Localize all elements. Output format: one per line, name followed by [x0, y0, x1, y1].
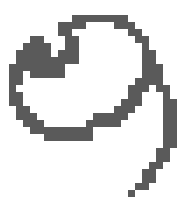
glyph-pixel-run	[135, 78, 163, 85]
glyph-pixel-run	[142, 169, 156, 176]
glyph-pixel-run	[9, 71, 23, 78]
glyph-pixel-run	[135, 36, 149, 43]
glyph-pixel-run	[9, 64, 65, 71]
glyph-pixel-run	[128, 29, 142, 36]
glyph-pixel-run	[163, 141, 177, 148]
glyph-pixel-run	[23, 120, 44, 127]
glyph-pixel-run	[72, 15, 128, 22]
glyph-pixel-run	[156, 148, 170, 155]
glyph-pixel-run	[142, 71, 163, 78]
glyph-pixel-run	[163, 99, 177, 106]
glyph-pixel-run	[23, 43, 51, 50]
glyph-pixel-run	[142, 64, 163, 71]
glyph-pixel-run	[142, 57, 156, 64]
glyph-pixel-run	[142, 43, 149, 50]
glyph-pixel-run	[142, 176, 156, 183]
glyph-pixel-run	[58, 22, 86, 29]
glyph-pixel-run	[163, 92, 170, 99]
glyph-pixel-run	[128, 85, 149, 92]
handwritten-glyph	[0, 0, 186, 215]
glyph-pixel-run	[156, 85, 170, 92]
glyph-pixel-run	[142, 50, 156, 57]
glyph-pixel-run	[30, 127, 93, 134]
glyph-pixel-run	[30, 36, 44, 43]
glyph-pixel-run	[163, 127, 177, 134]
glyph-pixel-run	[156, 155, 170, 162]
glyph-pixel-run	[9, 85, 16, 92]
glyph-pixel-run	[44, 134, 93, 141]
glyph-pixel-run	[128, 190, 135, 197]
glyph-pixel-run	[163, 113, 177, 120]
glyph-pixel-run	[114, 22, 135, 29]
glyph-pixel-run	[86, 120, 121, 127]
glyph-pixel-run	[128, 92, 142, 99]
glyph-pixel-run	[114, 106, 135, 113]
glyph-pixel-run	[9, 99, 23, 106]
glyph-pixel-run	[9, 78, 23, 85]
glyph-pixel-run	[65, 36, 79, 43]
glyph-pixel-run	[16, 50, 51, 57]
glyph-pixel-run	[30, 71, 65, 78]
glyph-pixel-run	[135, 183, 149, 190]
glyph-pixel-run	[16, 57, 79, 64]
glyph-pixel-run	[65, 43, 79, 50]
glyph-pixel-run	[9, 92, 23, 99]
glyph-pixel-run	[121, 99, 142, 106]
glyph-pixel-run	[149, 162, 163, 169]
glyph-pixel-run	[163, 120, 177, 127]
glyph-pixel-run	[163, 106, 177, 113]
glyph-pixel-run	[163, 134, 177, 141]
glyph-pixel-run	[93, 113, 128, 120]
glyph-pixel-run	[58, 50, 79, 57]
glyph-pixel-run	[16, 106, 30, 113]
glyph-pixel-run	[16, 113, 37, 120]
glyph-pixel-run	[58, 29, 72, 36]
